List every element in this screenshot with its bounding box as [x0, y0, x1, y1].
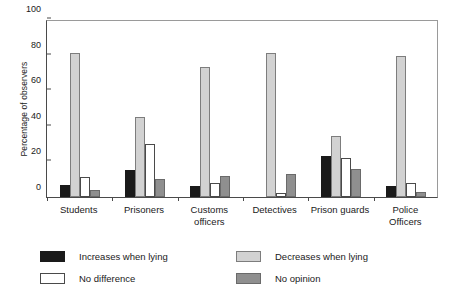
x-axis-tick-mark: [308, 197, 309, 201]
bar: [406, 183, 416, 197]
legend-item: Decreases when lying: [236, 245, 440, 267]
y-axis-tick-label: 80: [31, 40, 47, 50]
y-axis-tick-label: 100: [26, 4, 47, 14]
bar-group: [122, 21, 168, 197]
bar-group: [253, 21, 299, 197]
bar: [135, 117, 145, 197]
bar: [396, 56, 406, 197]
x-axis-tick-mark: [178, 197, 179, 201]
bar: [125, 170, 135, 197]
y-axis-tick-label: 20: [31, 146, 47, 156]
y-axis-tick-label: 40: [31, 111, 47, 121]
bar: [341, 158, 351, 197]
bar: [286, 174, 296, 197]
legend-label: Decreases when lying: [275, 251, 368, 262]
legend-swatch-icon: [236, 251, 261, 262]
bar: [351, 169, 361, 197]
bar: [321, 156, 331, 197]
bar: [155, 179, 165, 197]
y-axis-tick-mark: [47, 53, 51, 54]
chart-legend: Increases when lyingDecreases when lying…: [40, 245, 440, 289]
legend-swatch-icon: [236, 273, 261, 284]
legend-label: Increases when lying: [79, 251, 168, 262]
legend-swatch-icon: [40, 251, 65, 262]
bar-group: [57, 21, 103, 197]
bar: [266, 53, 276, 197]
bar-group: [318, 21, 364, 197]
bar: [80, 177, 90, 197]
legend-swatch-icon: [40, 273, 65, 284]
legend-item: No difference: [40, 267, 236, 289]
bar: [416, 192, 426, 197]
x-axis-label: Police Officers: [355, 204, 452, 227]
plot-area: 020406080100: [46, 20, 438, 198]
bar-group: [187, 21, 233, 197]
y-axis-tick-mark: [47, 124, 51, 125]
bar: [276, 193, 286, 197]
legend-item: No opinion: [236, 267, 440, 289]
x-axis-tick-mark: [47, 197, 48, 201]
bar: [190, 186, 200, 197]
bar-group: [383, 21, 429, 197]
bar: [220, 176, 230, 197]
bar: [90, 190, 100, 197]
bar: [331, 136, 341, 197]
y-axis-tick-label: 60: [31, 75, 47, 85]
bar: [145, 144, 155, 197]
x-axis-tick-mark: [243, 197, 244, 201]
bar: [60, 185, 70, 197]
y-axis-title: Percentage of observers: [19, 29, 29, 189]
bar: [386, 186, 396, 197]
y-axis-tick-mark: [47, 18, 51, 19]
y-axis-tick-mark: [47, 89, 51, 90]
bar: [210, 183, 220, 197]
bar-chart-figure: Percentage of observers 020406080100 Stu…: [0, 0, 452, 293]
x-axis-tick-mark: [112, 197, 113, 201]
legend-label: No opinion: [275, 273, 320, 284]
y-axis-tick-label: 0: [36, 182, 47, 192]
y-axis-tick-mark: [47, 160, 51, 161]
bar: [70, 53, 80, 197]
legend-item: Increases when lying: [40, 245, 236, 267]
x-axis-tick-mark: [374, 197, 375, 201]
bar: [200, 67, 210, 197]
legend-label: No difference: [79, 273, 135, 284]
